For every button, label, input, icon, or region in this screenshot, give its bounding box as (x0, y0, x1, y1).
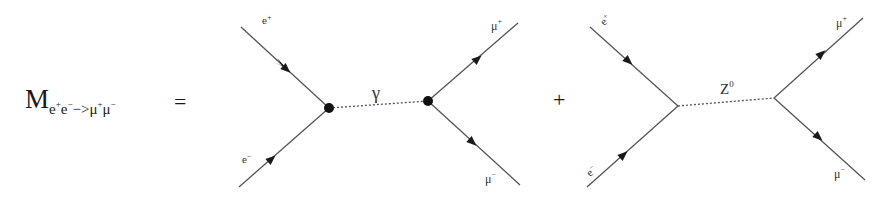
arrowheads-2 (617, 47, 828, 161)
electron-line (239, 108, 329, 187)
z-propagator (678, 98, 774, 106)
label-positron: e+ (597, 11, 613, 27)
electron-line (587, 106, 678, 187)
muon-plus-line (428, 23, 518, 101)
feynman-diagrams: e+ e− γ μ+ μ− e+ e− Z0 μ+ μ− (0, 0, 895, 200)
label-electron: e− (242, 152, 252, 165)
label-muon-minus: μ− (485, 170, 496, 186)
label-z-boson: Z0 (720, 79, 734, 97)
diagram-photon-exchange (239, 23, 520, 187)
label-muon-plus: μ+ (491, 17, 502, 33)
vertex-dot (324, 103, 334, 113)
label-muon-minus: μ− (834, 165, 845, 181)
muon-plus-line (774, 18, 863, 98)
arrowheads-1 (265, 52, 484, 165)
positron-line (590, 27, 678, 106)
arrow-icon (815, 47, 828, 60)
label-photon: γ (371, 83, 380, 103)
diagram-z-exchange (587, 18, 865, 187)
vertex-dot (423, 96, 433, 106)
label-positron: e+ (262, 13, 272, 26)
label-muon-plus: μ+ (836, 14, 847, 30)
label-electron: e− (583, 162, 599, 178)
